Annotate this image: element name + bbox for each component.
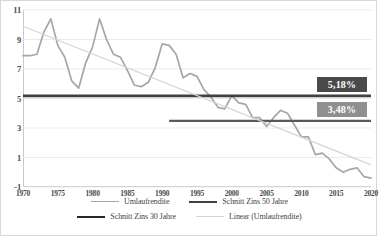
legend-swatch-line-icon bbox=[196, 216, 224, 217]
legend-swatch-line-icon bbox=[77, 216, 105, 218]
legend-swatch-line-icon bbox=[189, 201, 217, 203]
legend-row-bottom: Schnitt Zins 30 Jahre Linear (Umlaufrend… bbox=[1, 209, 378, 224]
legend-item-umlaufrendite[interactable]: Umlaufrendite bbox=[91, 197, 169, 206]
legend-item-schnitt-zins-30-jahre[interactable]: Schnitt Zins 30 Jahre bbox=[77, 212, 176, 221]
annotation-average-30y: 3,48% bbox=[317, 102, 367, 117]
legend-label: Schnitt Zins 50 Jahre bbox=[222, 197, 288, 206]
legend-label: Linear (Umlaufrendite) bbox=[229, 212, 302, 221]
legend-label: Schnitt Zins 30 Jahre bbox=[110, 212, 176, 221]
legend-row-top: Umlaufrendite Schnitt Zins 50 Jahre bbox=[1, 194, 378, 209]
legend-item-schnitt-zins-50-jahre[interactable]: Schnitt Zins 50 Jahre bbox=[189, 197, 288, 206]
legend-swatch-line-icon bbox=[91, 201, 119, 202]
chart-legend: Umlaufrendite Schnitt Zins 50 Jahre Schn… bbox=[1, 194, 378, 234]
legend-label: Umlaufrendite bbox=[124, 197, 169, 206]
legend-item-linear-trendline[interactable]: Linear (Umlaufrendite) bbox=[196, 212, 302, 221]
annotation-average-50y: 5,18% bbox=[317, 77, 367, 92]
